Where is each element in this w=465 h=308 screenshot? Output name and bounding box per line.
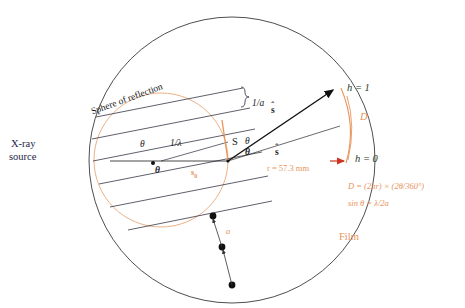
s-hat-lower-label: ˆs [275, 148, 279, 158]
one-over-lambda-marker [222, 120, 228, 161]
crystal-atoms-group [210, 213, 236, 289]
formula-bragg-label: sin θ = λ/2a [348, 199, 389, 208]
atom-arrow-upper [213, 219, 222, 247]
s-zero-subscript: 0 [194, 173, 197, 179]
figure-root: X-ray source Sphere of reflection 1/a 1/… [0, 0, 465, 308]
s-hat-upper-label: ˆs [271, 106, 275, 116]
film-label: Film [339, 232, 359, 243]
D-arc-label: D [360, 112, 368, 123]
diagram-canvas [0, 0, 465, 308]
s-hat-upper-mark: ˆ [271, 101, 274, 110]
h-equals-zero-label: h = 0 [355, 154, 378, 165]
s-hat-upper-vector [228, 90, 333, 161]
theta-left-upper-label: θ [140, 140, 145, 150]
origin-S-label: S [232, 137, 238, 148]
reciprocal-lattice-lines [92, 88, 272, 230]
D-arc [341, 88, 350, 163]
brace-one-over-a [241, 87, 249, 107]
theta-left-lower-label: θ [155, 166, 160, 176]
theta-right-upper-label: θ [245, 137, 250, 147]
lattice-spacing-a-label: a [226, 227, 230, 236]
formula-D-label: D = (2πr) × (2θ/360°) [348, 182, 424, 191]
s-zero-label: s0 [191, 168, 197, 179]
atom-arrow-lower [223, 250, 232, 285]
xray-source-label-line2: source [9, 152, 36, 163]
one-over-a-label: 1/a [252, 99, 264, 109]
theta-right-lower-label: θ [245, 148, 250, 158]
xray-source-label-line1: X-ray [11, 139, 36, 150]
s-hat-lower-mark: ˆ [275, 143, 278, 152]
origin-point [226, 159, 229, 162]
one-over-lambda-label: 1/λ [170, 139, 182, 149]
h-equals-one-label: h = 1 [347, 83, 370, 94]
radius-label: r = 57.3 mm [267, 164, 309, 173]
atom-top [210, 213, 217, 220]
